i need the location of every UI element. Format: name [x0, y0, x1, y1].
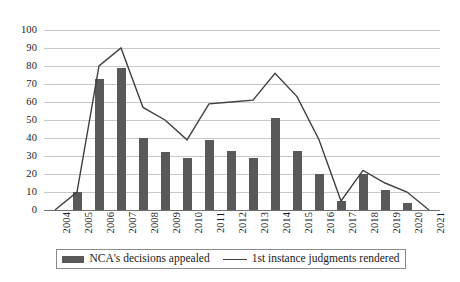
legend-label-bar: NCA's decisions appealed — [89, 253, 209, 265]
bar-swatch-icon — [62, 256, 84, 263]
y-tick-label-60: 60 — [0, 97, 37, 108]
chart-legend: NCA's decisions appealed 1st instance ju… — [56, 249, 406, 269]
y-tick-label-70: 70 — [0, 79, 37, 90]
judgments-line-path — [55, 48, 429, 210]
y-tick-label-40: 40 — [0, 133, 37, 144]
legend-entry-line: 1st instance judgments rendered — [223, 253, 400, 265]
y-tick-label-50: 50 — [0, 115, 37, 126]
y-tick-label-0: 0 — [0, 205, 37, 216]
gridline-0 — [44, 210, 440, 211]
line-series-1st-instance-judgments-rendered — [44, 30, 440, 210]
y-tick-label-90: 90 — [0, 43, 37, 54]
x-tick-label-2020: 2020 — [412, 212, 426, 256]
line-path-svg — [44, 30, 440, 210]
y-tick-label-100: 100 — [0, 25, 37, 36]
x-tick-label-2021: 2021 — [434, 212, 448, 256]
y-axis-labels: 0102030405060708090100 — [0, 0, 40, 282]
legend-entry-bar: NCA's decisions appealed — [62, 253, 209, 265]
y-tick-label-80: 80 — [0, 61, 37, 72]
legend-label-line: 1st instance judgments rendered — [252, 253, 400, 265]
y-tick-label-20: 20 — [0, 169, 37, 180]
plot-area — [44, 30, 440, 210]
y-tick-label-30: 30 — [0, 151, 37, 162]
line-swatch-icon — [223, 259, 247, 260]
y-tick-label-10: 10 — [0, 187, 37, 198]
chart-container: 0102030405060708090100 20042005200620072… — [0, 0, 460, 282]
